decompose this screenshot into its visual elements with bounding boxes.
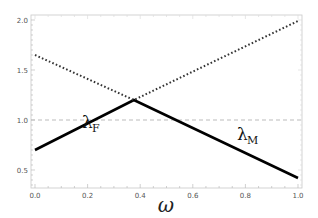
x-tick-label: 1.0 (292, 192, 303, 200)
label-lambda-m: λ M (237, 124, 258, 147)
x-tick-label: 0.0 (29, 192, 40, 200)
x-axis-ticks: 0.00.20.40.60.81.0 (29, 15, 303, 200)
x-tick-label: 0.4 (135, 192, 147, 200)
y-tick-label: 1.5 (17, 67, 28, 75)
line-chart: 0.00.20.40.60.81.0 0.51.01.52.0 ω λ F λ … (0, 0, 318, 218)
svg-text:F: F (92, 122, 100, 135)
plot-frame (31, 15, 302, 188)
svg-text:M: M (247, 134, 258, 147)
x-tick-label: 0.6 (187, 192, 199, 200)
solid-series-line (35, 100, 298, 178)
y-tick-label: 1.0 (17, 117, 28, 125)
y-tick-label: 0.5 (17, 167, 28, 175)
y-tick-label: 2.0 (17, 17, 28, 25)
series-lines (35, 21, 298, 178)
x-axis-title: ω (158, 193, 174, 217)
x-tick-label: 0.8 (240, 192, 251, 200)
x-tick-label: 0.2 (82, 192, 93, 200)
dotted-series-line (35, 21, 298, 100)
label-lambda-f: λ F (82, 112, 100, 135)
